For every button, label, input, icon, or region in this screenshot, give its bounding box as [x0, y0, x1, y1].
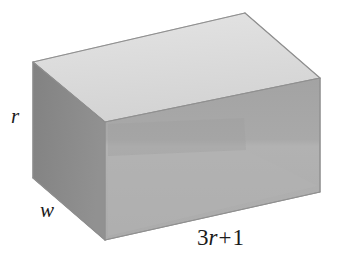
length-label: 3r+1	[197, 226, 244, 249]
prism-inner-back-shading	[108, 118, 246, 156]
rectangular-prism-drawing	[0, 0, 340, 264]
width-label: w	[40, 200, 54, 221]
width-label-text: w	[40, 198, 54, 222]
length-constant: 1	[232, 225, 244, 250]
height-label-text: r	[11, 104, 19, 128]
length-operator: +	[217, 225, 232, 250]
geometry-figure: r w 3r+1	[0, 0, 340, 264]
length-coefficient: 3	[197, 225, 209, 250]
height-label: r	[11, 106, 19, 127]
